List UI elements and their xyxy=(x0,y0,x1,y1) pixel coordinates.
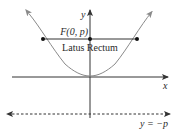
directrix-label: y = −p xyxy=(139,118,168,129)
x-axis-label: x xyxy=(162,80,168,91)
latus-rectum-right-endpoint xyxy=(135,37,139,41)
focus-label: F(0, p) xyxy=(59,26,88,38)
focus-point xyxy=(88,37,92,41)
parabola-diagram: y x F(0, p) Latus Rectum y = −p xyxy=(0,0,185,137)
y-axis-label: y xyxy=(80,9,86,20)
latus-rectum-label: Latus Rectum xyxy=(62,42,118,53)
latus-rectum-left-endpoint xyxy=(41,37,45,41)
